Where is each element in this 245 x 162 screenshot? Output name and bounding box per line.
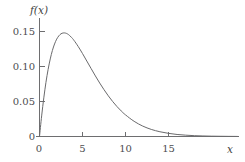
y-axis-title: f(x) bbox=[29, 4, 48, 16]
figure-container: 0.15 0.10 0.05 0 0 5 10 15 f(x) x bbox=[0, 0, 245, 162]
x-tick-label-5: 5 bbox=[79, 143, 85, 154]
x-axis-title: x bbox=[227, 143, 233, 155]
x-tick-label-10: 10 bbox=[119, 143, 132, 154]
x-tick-label-0: 0 bbox=[36, 143, 42, 154]
x-tick-label-15: 15 bbox=[162, 143, 175, 154]
y-tick-label-0.05: 0.05 bbox=[13, 96, 35, 107]
y-tick-label-0.15: 0.15 bbox=[13, 26, 35, 37]
density-plot: 0.15 0.10 0.05 0 0 5 10 15 f(x) x bbox=[0, 0, 245, 162]
y-tick-label-0: 0 bbox=[29, 131, 35, 142]
density-curve bbox=[40, 33, 238, 137]
y-tick-label-0.10: 0.10 bbox=[13, 61, 35, 72]
